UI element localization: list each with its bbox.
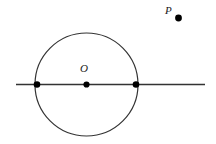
center-label-O: O xyxy=(80,63,88,74)
external-point-label-P: P xyxy=(165,5,172,16)
left-intersection-point xyxy=(34,81,41,88)
geometry-figure: O P xyxy=(0,0,216,144)
right-intersection-point xyxy=(133,81,140,88)
geometry-canvas xyxy=(0,0,216,144)
center-point-O xyxy=(83,81,89,87)
external-point-P xyxy=(175,15,182,22)
